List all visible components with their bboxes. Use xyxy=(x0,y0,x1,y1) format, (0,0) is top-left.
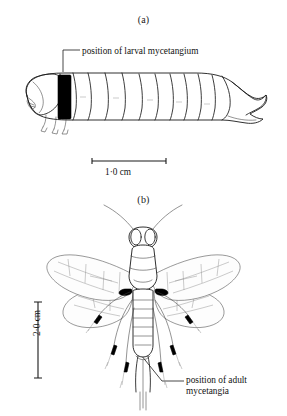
left-hindleg-tarsus xyxy=(124,362,129,372)
adult-mycetangia-callout: position of adult mycetangia xyxy=(186,375,247,397)
panel-b-label: (b) xyxy=(0,194,287,205)
left-midleg-tarsus xyxy=(111,345,117,355)
scale-bar-horizontal-label: 1·0 cm xyxy=(105,167,131,177)
right-hindleg-tarsal-segments xyxy=(163,372,167,388)
left-antenna xyxy=(104,205,133,229)
ovipositor-sheath-right xyxy=(148,356,150,392)
scale-bar-vertical-label: 2·0 cm xyxy=(32,300,42,346)
left-hindleg-tarsal-segments xyxy=(120,372,124,388)
left-midleg-tarsal-segments xyxy=(105,354,111,369)
right-midleg-tarsus xyxy=(170,345,176,355)
larval-mycetangium-marker xyxy=(58,75,71,119)
scientific-figure: (a) xyxy=(0,0,287,416)
right-hindleg xyxy=(153,308,161,362)
right-antenna xyxy=(153,205,182,229)
larva-leader-line xyxy=(63,50,80,72)
larval-mycetangium-callout: position of larval mycetangium xyxy=(82,46,198,57)
right-midleg-tarsal-segments xyxy=(176,354,182,369)
larva-leg-3 xyxy=(62,119,68,134)
ovipositor-shaft xyxy=(140,360,146,410)
scale-bar-horizontal xyxy=(92,158,166,164)
larva-drawing xyxy=(0,0,287,416)
wasp-abdomen xyxy=(133,289,153,357)
right-hindleg-tarsus xyxy=(158,362,163,372)
wasp-thorax xyxy=(129,245,157,290)
ovipositor-sheath-left xyxy=(136,356,138,392)
